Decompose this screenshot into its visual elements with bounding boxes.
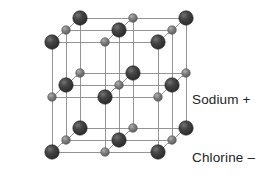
ion-body [179, 11, 193, 25]
ion-body [154, 93, 163, 102]
sodium-ion-sphere [76, 69, 85, 78]
ion-body [101, 148, 110, 157]
ion-highlight [63, 138, 66, 140]
chlorine-ion-sphere [59, 78, 73, 92]
ion-body [62, 26, 71, 35]
chlorine-ion-sphere [151, 35, 165, 49]
ion-highlight [129, 69, 133, 72]
ion-body [62, 136, 71, 145]
ion-body [126, 66, 140, 80]
ion-highlight [169, 28, 172, 30]
ion-highlight [49, 95, 52, 97]
ion-body [129, 14, 138, 23]
ion-body [112, 133, 126, 147]
ion-highlight [182, 124, 186, 127]
ion-highlight [116, 83, 119, 85]
ion-highlight [48, 38, 52, 41]
ion-highlight [183, 71, 186, 73]
chlorine-ion-sphere [151, 145, 165, 159]
ion-highlight [154, 148, 158, 151]
chlorine-ion-sphere [73, 11, 87, 25]
sodium-ion-sphere [129, 124, 138, 133]
ion-highlight [48, 148, 52, 151]
ion-highlight [154, 38, 158, 41]
ion-highlight [101, 93, 105, 96]
ion-body [98, 90, 112, 104]
chlorine-ion-sphere [179, 11, 193, 25]
ion-highlight [115, 26, 119, 29]
ion-body [73, 121, 87, 135]
ion-highlight [182, 14, 186, 17]
legend-label-sodium: Sodium + [192, 93, 251, 107]
sodium-ion-sphere [101, 148, 110, 157]
ion-highlight [76, 124, 80, 127]
sodium-ion-sphere [168, 136, 177, 145]
chlorine-ion-sphere [112, 23, 126, 37]
chlorine-ion-sphere [126, 66, 140, 80]
ion-highlight [76, 14, 80, 17]
crystal-lattice-figure: Sodium + Chlorine – [0, 0, 273, 177]
ion-body [179, 121, 193, 135]
ion-highlight [168, 81, 172, 84]
chlorine-ion-sphere [112, 133, 126, 147]
sodium-ion-sphere [182, 69, 191, 78]
ion-body [168, 26, 177, 35]
ion-highlight [130, 126, 133, 128]
ion-body [115, 81, 124, 90]
ion-body [129, 124, 138, 133]
ion-highlight [155, 95, 158, 97]
ion-body [182, 69, 191, 78]
ion-body [168, 136, 177, 145]
ion-highlight [115, 136, 119, 139]
ion-body [59, 78, 73, 92]
sodium-ion-sphere [62, 136, 71, 145]
ion-body [165, 78, 179, 92]
chlorine-ion-sphere [45, 35, 59, 49]
legend-label-chlorine: Chlorine – [192, 151, 255, 165]
ion-body [45, 145, 59, 159]
sodium-ion-sphere [48, 93, 57, 102]
ion-body [151, 145, 165, 159]
ion-body [45, 35, 59, 49]
sodium-ion-sphere [62, 26, 71, 35]
chlorine-ion-sphere [45, 145, 59, 159]
sodium-ion-sphere [129, 14, 138, 23]
chlorine-ion-sphere [165, 78, 179, 92]
ion-highlight [102, 40, 105, 42]
ion-body [76, 69, 85, 78]
chlorine-ion-sphere [73, 121, 87, 135]
ion-highlight [63, 28, 66, 30]
ion-body [151, 35, 165, 49]
sodium-ion-sphere [168, 26, 177, 35]
sodium-ion-sphere [101, 38, 110, 47]
sodium-ion-sphere [115, 81, 124, 90]
ion-layer [45, 11, 193, 159]
ion-highlight [62, 81, 66, 84]
ion-body [73, 11, 87, 25]
ion-highlight [169, 138, 172, 140]
ion-highlight [102, 150, 105, 152]
ion-body [48, 93, 57, 102]
chlorine-ion-sphere [98, 90, 112, 104]
ion-highlight [130, 16, 133, 18]
ion-highlight [77, 71, 80, 73]
chlorine-ion-sphere [179, 121, 193, 135]
ion-body [112, 23, 126, 37]
ion-body [101, 38, 110, 47]
sodium-ion-sphere [154, 93, 163, 102]
